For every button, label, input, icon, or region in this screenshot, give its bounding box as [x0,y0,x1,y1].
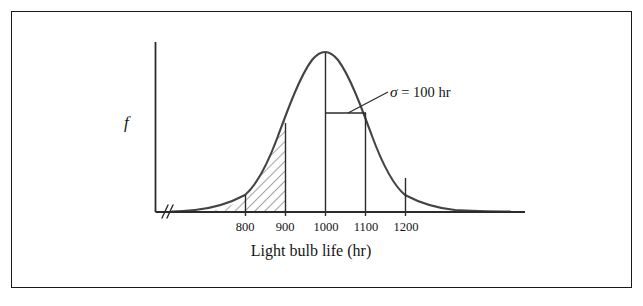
x-tick-label-800: 800 [236,221,255,234]
normal-curve [172,52,510,212]
normal-distribution-plot [0,0,643,306]
sigma-annotation: σ = 100 hr [390,84,451,100]
x-tick-label-900: 900 [276,221,295,234]
x-tick-label-1000: 1000 [314,221,339,234]
shaded-hatched-region [195,40,285,212]
x-tick-label-1200: 1200 [394,221,419,234]
sigma-symbol: σ [390,83,398,100]
sigma-equals: = [401,84,409,100]
y-axis-label: f [124,114,129,131]
x-axis-title: Light bulb life (hr) [251,243,371,259]
sigma-leader-line [348,92,388,113]
sigma-value: 100 hr [413,84,450,100]
figure-root: f 800 900 1000 1100 1200 Light bulb life… [0,0,643,306]
x-tick-label-1100: 1100 [354,221,379,234]
